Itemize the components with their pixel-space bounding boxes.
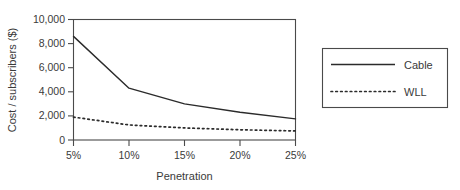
- x-tick-label: 15%: [174, 149, 195, 161]
- y-tick-label: 2,000: [39, 109, 65, 121]
- y-tick-label: 8,000: [39, 37, 65, 49]
- y-tick-label: 10,000: [33, 13, 65, 25]
- y-axis-tick-labels: 10,000 8,000 6,000 4,000 2,000 0: [33, 13, 65, 146]
- series-line-cable: [74, 36, 296, 119]
- x-tick-label: 25%: [285, 149, 306, 161]
- chart-figure: 10,000 8,000 6,000 4,000 2,000 0 5% 10% …: [0, 0, 460, 190]
- series-line-wll: [74, 117, 296, 131]
- y-tick-label: 6,000: [39, 61, 65, 73]
- x-tick-label: 20%: [229, 149, 250, 161]
- y-axis-ticks: [68, 20, 74, 141]
- y-tick-label: 0: [59, 134, 65, 146]
- x-axis-tick-labels: 5% 10% 15% 20% 25%: [66, 149, 306, 161]
- line-chart-svg: 10,000 8,000 6,000 4,000 2,000 0 5% 10% …: [0, 0, 460, 190]
- y-tick-label: 4,000: [39, 85, 65, 97]
- legend-label-wll: WLL: [404, 86, 427, 98]
- x-tick-label: 10%: [118, 149, 139, 161]
- y-axis-title: Cost / subscribers ($): [6, 28, 18, 133]
- legend-label-cable: Cable: [404, 59, 433, 71]
- legend-box: [323, 49, 448, 108]
- x-tick-label: 5%: [66, 149, 81, 161]
- x-axis-ticks: [74, 140, 296, 146]
- chart-legend: Cable WLL: [323, 49, 448, 108]
- x-axis-title: Penetration: [156, 170, 212, 182]
